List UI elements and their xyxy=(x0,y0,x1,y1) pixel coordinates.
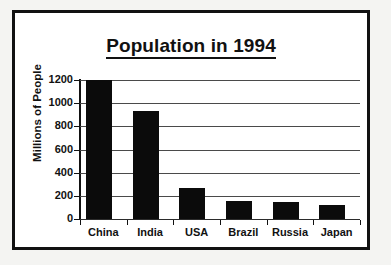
y-axis-tick-label: 400 xyxy=(33,167,73,178)
y-axis-tick-label: 0 xyxy=(33,213,73,224)
x-axis-tick-label: USA xyxy=(173,226,220,238)
y-axis-tick-labels: 120010008006004002000 xyxy=(25,13,73,253)
chart-frame: Population in 1994 Millions of People 12… xyxy=(12,10,370,250)
y-axis-tick xyxy=(74,219,79,220)
chart-title-text: Population in 1994 xyxy=(106,35,276,59)
x-axis-tick xyxy=(313,220,314,225)
x-axis-tick-label: Russia xyxy=(267,226,314,238)
y-axis-tick-label: 1200 xyxy=(33,74,73,85)
y-axis-tick xyxy=(74,80,79,81)
x-axis-tick xyxy=(127,220,128,225)
x-axis-tick-label: Brazil xyxy=(220,226,267,238)
x-axis-tick-label: India xyxy=(127,226,174,238)
x-axis-tick-label: China xyxy=(80,226,127,238)
x-axis-tick xyxy=(173,220,174,225)
y-axis-tick xyxy=(74,173,79,174)
x-axis-tick xyxy=(80,220,81,225)
y-axis-tick-label: 600 xyxy=(33,144,73,155)
y-axis-tick xyxy=(74,126,79,127)
bar xyxy=(319,205,345,219)
bar xyxy=(86,80,112,219)
y-axis-tick xyxy=(74,150,79,151)
bar xyxy=(226,201,252,219)
y-axis-tick xyxy=(74,196,79,197)
x-axis-tick xyxy=(267,220,268,225)
gridline xyxy=(80,80,360,81)
gridline xyxy=(80,173,360,174)
chart-figure: Population in 1994 Millions of People 12… xyxy=(0,0,391,265)
bar xyxy=(273,202,299,219)
x-axis-tick-label: Japan xyxy=(313,226,360,238)
x-axis-tick xyxy=(220,220,221,225)
gridline xyxy=(80,196,360,197)
x-axis-end-tick xyxy=(360,220,361,225)
y-axis-tick-label: 1000 xyxy=(33,97,73,108)
gridline xyxy=(80,103,360,104)
y-axis-tick-label: 200 xyxy=(33,190,73,201)
y-axis-tick-label: 800 xyxy=(33,120,73,131)
y-axis-tick xyxy=(74,103,79,104)
bar xyxy=(179,188,205,219)
plot-area xyxy=(80,80,360,219)
gridline xyxy=(80,150,360,151)
gridline xyxy=(80,126,360,127)
bar xyxy=(133,111,159,219)
